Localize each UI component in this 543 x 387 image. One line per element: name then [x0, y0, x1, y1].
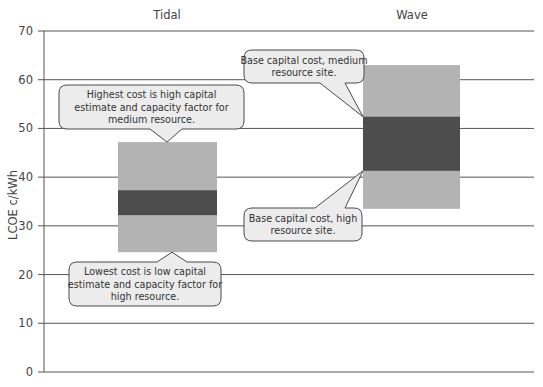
y-tick-label: 60	[18, 73, 33, 87]
callout-wave-high: Base capital cost, highresource site.	[244, 171, 363, 241]
base-bar-tidal	[118, 190, 217, 215]
callout-tidal-high: Highest cost is high capitalestimate and…	[59, 85, 244, 142]
category-label-tidal: Tidal	[152, 8, 180, 22]
y-tick-label: 30	[18, 219, 33, 233]
callout-wave-medium: Base capital cost, mediumresource site.	[240, 50, 367, 117]
callout-text-line: estimate and capacity factor for	[68, 279, 222, 290]
base-bar-wave	[363, 117, 460, 171]
category-labels: TidalWave	[152, 8, 428, 22]
y-tick-label: 0	[26, 365, 33, 379]
callout-tidal-low: Lowest cost is low capitalestimate and c…	[68, 252, 222, 306]
callout-text-line: Highest cost is high capital	[87, 89, 217, 100]
y-tick-label: 70	[18, 24, 33, 38]
callout-text-line: Base capital cost, medium	[240, 55, 367, 66]
category-label-wave: Wave	[396, 8, 428, 22]
callout-text-line: Lowest cost is low capital	[84, 266, 206, 277]
callout-text-line: high resource.	[111, 291, 180, 302]
callout-text-line: resource site.	[272, 67, 337, 78]
lcoe-chart: 010203040506070 LCOE c/kWh TidalWave Hig…	[0, 0, 543, 387]
y-tick-label: 40	[18, 170, 33, 184]
callout-text-line: Base capital cost, high	[249, 213, 358, 224]
y-tick-label: 10	[18, 316, 33, 330]
y-tick-label: 20	[18, 268, 33, 282]
callout-text-line: medium resource.	[108, 114, 195, 125]
y-axis-title: LCOE c/kWh	[6, 170, 20, 240]
y-tick-label: 50	[18, 121, 33, 135]
callout-text-line: resource site.	[271, 225, 336, 236]
y-axis-ticks: 010203040506070	[18, 24, 33, 379]
callout-text-line: estimate and capacity factor for	[74, 102, 228, 113]
